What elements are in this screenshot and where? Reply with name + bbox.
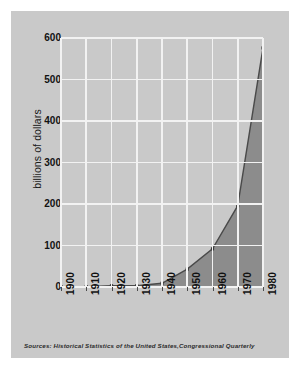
x-tick-label: 1930	[141, 272, 152, 295]
x-tick-label: 1970	[242, 272, 253, 295]
x-tick-mark	[238, 287, 239, 291]
y-tick-label: 500	[23, 75, 61, 85]
x-tick-label: 1940	[166, 272, 177, 295]
x-tick-mark	[213, 287, 214, 291]
x-tick-label: 1950	[191, 272, 202, 295]
y-axis-ticks: 0100200300400500600	[19, 11, 61, 358]
gridline-vertical	[136, 38, 138, 287]
x-axis-ticks: 190019101920193019401950196019701980	[61, 287, 263, 337]
y-tick-label: 200	[23, 199, 61, 209]
gridline-vertical	[186, 38, 188, 287]
y-tick-label: 100	[23, 241, 61, 251]
x-tick-label: 1910	[90, 272, 101, 295]
source-note: Sources: Historical Statistics of the Un…	[24, 342, 255, 349]
gridline-vertical	[111, 38, 113, 287]
chart-card: billions of dollars 0100200300400500600 …	[11, 11, 289, 358]
x-tick-mark	[61, 287, 62, 291]
y-tick-label: 0	[23, 282, 61, 292]
x-tick-mark	[263, 287, 264, 291]
gridline-vertical	[85, 38, 87, 287]
x-tick-label: 1960	[217, 272, 228, 295]
x-tick-mark	[86, 287, 87, 291]
gridline-vertical	[237, 38, 239, 287]
chart-figure: billions of dollars 0100200300400500600 …	[0, 0, 300, 369]
y-tick-label: 600	[23, 33, 61, 43]
x-tick-label: 1920	[116, 272, 127, 295]
x-tick-mark	[162, 287, 163, 291]
x-tick-mark	[112, 287, 113, 291]
gridline-vertical	[262, 38, 264, 287]
plot-area	[61, 38, 263, 287]
x-tick-mark	[187, 287, 188, 291]
x-tick-label: 1980	[267, 272, 278, 295]
gridline-vertical	[161, 38, 163, 287]
y-tick-label: 400	[23, 116, 61, 126]
gridline-vertical	[212, 38, 214, 287]
y-tick-label: 300	[23, 158, 61, 168]
x-tick-label: 1900	[65, 272, 76, 295]
gridline-vertical	[60, 38, 62, 287]
x-tick-mark	[137, 287, 138, 291]
